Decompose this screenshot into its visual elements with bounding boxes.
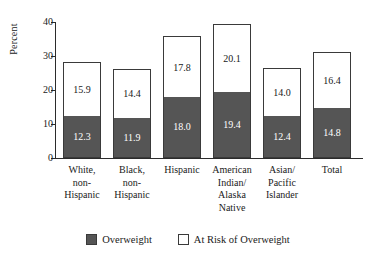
chart-legend: OverweightAt Risk of Overweight — [0, 234, 376, 245]
y-axis-tick-label: 40 — [29, 17, 53, 27]
bar-segment-at-risk[interactable]: 20.1 — [213, 24, 251, 92]
bar-value-label: 14.0 — [264, 87, 300, 98]
y-axis-label: Percent — [8, 4, 24, 74]
category-label-line: Total — [305, 164, 359, 177]
bar-value-label: 20.1 — [214, 53, 250, 64]
bar-segment-at-risk[interactable]: 14.4 — [113, 69, 151, 118]
legend-entry[interactable]: Overweight — [86, 234, 152, 245]
bar-value-label: 17.8 — [164, 62, 200, 73]
category-label-line: Asian/ — [255, 164, 309, 177]
bar-segment-at-risk[interactable]: 16.4 — [313, 52, 351, 108]
bar-value-label: 11.9 — [114, 132, 150, 143]
bar-segment-overweight[interactable]: 11.9 — [113, 118, 151, 158]
x-axis-category-label: Hispanic — [155, 164, 209, 177]
bar-group[interactable]: 14.411.9 — [113, 69, 151, 158]
bar-segment-overweight[interactable]: 14.8 — [313, 108, 351, 158]
y-axis-tick-label: 30 — [29, 51, 53, 61]
category-label-line: Hispanic — [155, 164, 209, 177]
x-axis-category-label: Black,non-Hispanic — [105, 164, 159, 202]
x-axis-category-label: Asian/PacificIslander — [255, 164, 309, 202]
y-axis-tick-label: 10 — [29, 119, 53, 129]
category-label-line: Alaska — [205, 189, 259, 202]
category-label-line: Indian/ — [205, 177, 259, 190]
x-axis-line — [55, 158, 363, 159]
category-label-line: White, — [55, 164, 109, 177]
bar-segment-at-risk[interactable]: 14.0 — [263, 68, 301, 116]
category-label-line: non- — [55, 177, 109, 190]
category-label-line: Hispanic — [105, 189, 159, 202]
bar-value-label: 14.4 — [114, 88, 150, 99]
plot-area: 010203040 15.912.314.411.917.818.020.119… — [55, 18, 365, 162]
bar-value-label: 18.0 — [164, 121, 200, 132]
category-label-line: Hispanic — [55, 189, 109, 202]
bar-segment-at-risk[interactable]: 17.8 — [163, 36, 201, 97]
bar-value-label: 15.9 — [64, 84, 100, 95]
legend-label: Overweight — [102, 234, 152, 245]
y-axis-tick-label: 20 — [29, 85, 53, 95]
category-label-line: American — [205, 164, 259, 177]
legend-label: At Risk of Overweight — [194, 234, 290, 245]
category-label-line: Islander — [255, 189, 309, 202]
at-risk-swatch — [178, 234, 189, 245]
bar-segment-overweight[interactable]: 12.3 — [63, 116, 101, 158]
overweight-swatch — [86, 234, 97, 245]
bar-group[interactable]: 20.119.4 — [213, 24, 251, 158]
x-axis-category-label: AmericanIndian/AlaskaNative — [205, 164, 259, 214]
category-label-line: non- — [105, 177, 159, 190]
stacked-bar-chart: Percent 010203040 15.912.314.411.917.818… — [0, 0, 376, 260]
y-axis-tick-label: 0 — [29, 153, 53, 163]
bar-value-label: 12.3 — [64, 131, 100, 142]
legend-entry[interactable]: At Risk of Overweight — [178, 234, 290, 245]
category-label-line: Black, — [105, 164, 159, 177]
bar-value-label: 19.4 — [214, 119, 250, 130]
bar-segment-overweight[interactable]: 12.4 — [263, 116, 301, 158]
x-axis-category-label: Total — [305, 164, 359, 177]
bar-group[interactable]: 15.912.3 — [63, 62, 101, 158]
bar-group[interactable]: 17.818.0 — [163, 36, 201, 158]
bar-segment-overweight[interactable]: 19.4 — [213, 92, 251, 158]
bar-group[interactable]: 14.012.4 — [263, 68, 301, 158]
category-label-line: Native — [205, 202, 259, 215]
bar-segment-at-risk[interactable]: 15.9 — [63, 62, 101, 116]
bar-group[interactable]: 16.414.8 — [313, 52, 351, 158]
bar-value-label: 12.4 — [264, 131, 300, 142]
x-axis-category-label: White,non-Hispanic — [55, 164, 109, 202]
bar-value-label: 16.4 — [314, 75, 350, 86]
bar-value-label: 14.8 — [314, 127, 350, 138]
category-label-line: Pacific — [255, 177, 309, 190]
bar-segment-overweight[interactable]: 18.0 — [163, 97, 201, 158]
